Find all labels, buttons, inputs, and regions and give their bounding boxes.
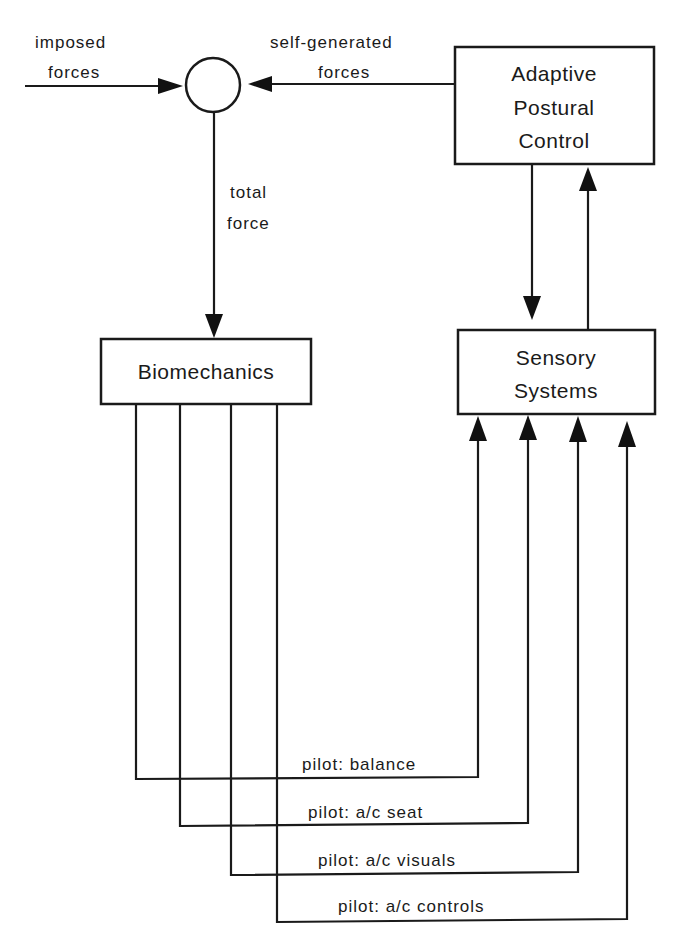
arrowhead-up-icon xyxy=(469,416,487,441)
self-generated-forces-input: self-generated forces xyxy=(248,33,455,92)
sensory-systems-box: Sensory Systems xyxy=(458,330,655,414)
arrowhead-right-icon xyxy=(158,78,183,94)
feedback-label-balance: pilot: balance xyxy=(302,755,416,774)
feedback-label-visuals: pilot: a/c visuals xyxy=(318,851,456,870)
sensory-label-1: Sensory xyxy=(516,346,597,369)
summing-junction xyxy=(186,58,240,112)
adaptive-label-1: Adaptive xyxy=(511,62,597,85)
sensory-label-2: Systems xyxy=(514,379,598,402)
total-force-label-1: total xyxy=(230,183,267,202)
self-generated-forces-label-1: self-generated xyxy=(270,33,393,52)
total-force-label-2: force xyxy=(227,214,270,233)
feedback-path-controls: pilot: a/c controls xyxy=(277,404,636,922)
arrowhead-up-icon xyxy=(579,167,597,191)
adaptive-postural-control-box: Adaptive Postural Control xyxy=(455,47,654,164)
imposed-forces-label-1: imposed xyxy=(35,33,106,52)
feedback-label-seat: pilot: a/c seat xyxy=(308,803,423,822)
arrowhead-down-icon xyxy=(205,314,223,338)
postural-control-diagram: imposed forces self-generated forces tot… xyxy=(0,0,678,947)
imposed-forces-label-2: forces xyxy=(48,63,100,82)
arrowhead-up-icon xyxy=(569,416,587,442)
adaptive-label-2: Postural xyxy=(513,96,594,119)
arrowhead-up-icon xyxy=(519,415,537,440)
feedback-path-balance: pilot: balance xyxy=(136,404,487,779)
arrowhead-up-icon xyxy=(618,421,636,447)
self-generated-forces-label-2: forces xyxy=(318,63,370,82)
feedback-label-controls: pilot: a/c controls xyxy=(338,897,485,916)
total-force-path: total force xyxy=(205,112,270,338)
biomechanics-box: Biomechanics xyxy=(101,339,311,404)
arrowhead-down-icon xyxy=(523,296,541,320)
arrowhead-left-icon xyxy=(248,76,272,92)
adaptive-label-3: Control xyxy=(518,129,589,152)
imposed-forces-input: imposed forces xyxy=(25,33,183,94)
biomechanics-label: Biomechanics xyxy=(138,360,275,383)
